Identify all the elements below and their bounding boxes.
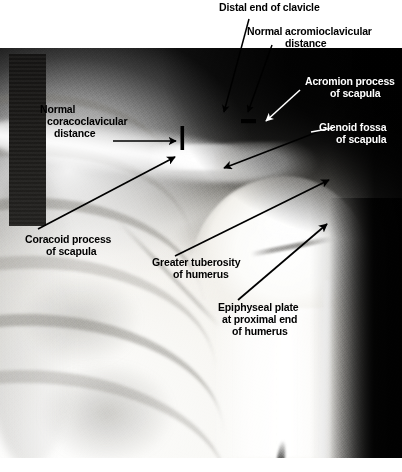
leader-epiphyseal-plate xyxy=(238,224,327,300)
label-distal-clavicle: Distal end of clavicle xyxy=(219,2,395,14)
label-glenoid-fossa-line2: of scapula xyxy=(336,134,386,146)
label-coracoclavicular-distance-line3: distance xyxy=(54,128,95,140)
annotation-overlay: Distal end of clavicle Normal acromiocla… xyxy=(0,0,402,472)
leader-coracoid-process xyxy=(38,157,175,229)
acromioclavicular-distance-marker xyxy=(241,119,256,123)
coracoclavicular-distance-marker xyxy=(181,126,185,150)
label-acromion-process-line2: of scapula xyxy=(330,88,380,100)
label-coracoid-process-line2: of scapula xyxy=(46,246,96,258)
leader-greater-tuberosity xyxy=(175,180,329,256)
label-epiphyseal-plate-line3: of humerus xyxy=(232,326,288,338)
label-greater-tuberosity-line2: of humerus xyxy=(173,269,229,281)
label-acromioclavicular-distance-line2: distance xyxy=(285,38,326,50)
leader-acromioclavicular-distance xyxy=(248,45,272,112)
figure-page: Distal end of clavicle Normal acromiocla… xyxy=(0,0,402,472)
leader-glenoid-fossa xyxy=(224,131,320,168)
leader-acromion-process xyxy=(266,90,300,121)
leader-distal-clavicle xyxy=(224,19,249,112)
